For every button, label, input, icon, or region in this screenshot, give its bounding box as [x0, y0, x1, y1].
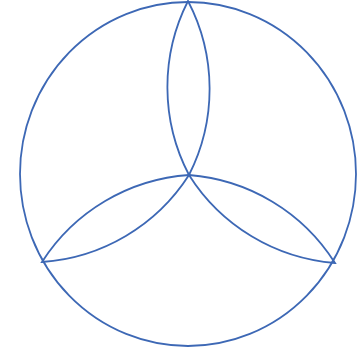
diagram-canvas	[0, 0, 364, 349]
bottom-right-lens	[189, 175, 335, 263]
bottom-left-lens	[42, 175, 189, 262]
top-lens	[167, 1, 209, 175]
trefoil-diagram	[0, 0, 364, 349]
lenses-group	[42, 1, 335, 263]
